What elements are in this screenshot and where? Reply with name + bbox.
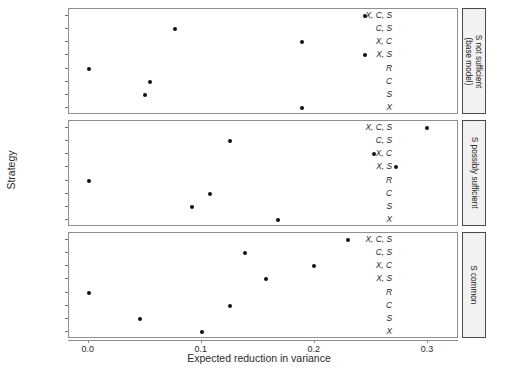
data-point (173, 27, 177, 31)
plot-area (68, 120, 458, 226)
data-point (87, 291, 91, 295)
data-point (276, 218, 280, 222)
x-tick-mark (88, 340, 89, 343)
y-tick-mark (65, 252, 68, 253)
x-tick-mark (314, 340, 315, 343)
chart-figure: Strategy X, C, SC, SX, CX, SRCSXS not su… (0, 0, 518, 373)
y-tick-mark (65, 180, 68, 181)
y-tick-label: C, S (376, 135, 392, 145)
y-tick-label: S (386, 89, 392, 99)
facet-strip-label: S possibly sufficient (462, 120, 486, 226)
y-tick-label: X, C, S (365, 10, 392, 20)
plot-area (68, 232, 458, 338)
y-tick-label: C, S (376, 23, 392, 33)
x-tick-mark (427, 340, 428, 343)
y-tick-mark (65, 28, 68, 29)
facet-strip-text: S common (469, 265, 479, 304)
data-point (312, 264, 316, 268)
y-tick-label: S (386, 201, 392, 211)
y-tick-mark (65, 193, 68, 194)
y-tick-mark (65, 278, 68, 279)
facet-strip-label: S not sufficient(base model) (462, 8, 486, 114)
y-tick-label: X, C (376, 148, 392, 158)
data-point (300, 106, 304, 110)
y-tick-label: X, C, S (365, 122, 392, 132)
y-axis-title: Strategy (2, 0, 20, 340)
plot-area (68, 8, 458, 114)
facet-strip-label: S common (462, 232, 486, 338)
y-tick-label: R (386, 287, 392, 297)
y-tick-mark (65, 41, 68, 42)
y-tick-mark (65, 331, 68, 332)
data-point (87, 179, 91, 183)
facet-strip-text: S not sufficient(base model) (465, 34, 484, 88)
y-tick-mark (65, 54, 68, 55)
data-point (148, 80, 152, 84)
data-point (243, 251, 247, 255)
y-tick-mark (65, 292, 68, 293)
data-point (394, 165, 398, 169)
x-tick-mark (201, 340, 202, 343)
y-tick-mark (65, 140, 68, 141)
facet-panel: X, C, SC, SX, CX, SRCSXS common (68, 232, 460, 340)
y-tick-label: X (386, 102, 392, 112)
x-axis-title: Expected reduction in variance (0, 352, 518, 364)
facet-panel: X, C, SC, SX, CX, SRCSXS not sufficient(… (68, 8, 460, 116)
y-tick-label: X, C, S (365, 234, 392, 244)
facet-strip-text: S possibly sufficient (469, 137, 479, 209)
data-point (200, 330, 204, 334)
y-tick-mark (65, 318, 68, 319)
y-tick-label: X (386, 214, 392, 224)
y-tick-mark (65, 265, 68, 266)
data-point (208, 192, 212, 196)
data-point (228, 304, 232, 308)
y-tick-mark (65, 166, 68, 167)
y-tick-label: X, C (376, 36, 392, 46)
y-tick-mark (65, 81, 68, 82)
y-tick-label: C (386, 188, 392, 198)
y-tick-mark (65, 206, 68, 207)
y-tick-mark (65, 153, 68, 154)
data-point (87, 67, 91, 71)
y-tick-mark (65, 68, 68, 69)
y-tick-label: X, S (376, 49, 392, 59)
y-tick-mark (65, 219, 68, 220)
y-tick-label: X (386, 326, 392, 336)
data-point (190, 205, 194, 209)
x-axis-line (68, 340, 458, 341)
facet-panel-stack: X, C, SC, SX, CX, SRCSXS not sufficient(… (68, 8, 460, 340)
y-tick-label: C (386, 300, 392, 310)
y-tick-label: X, S (376, 273, 392, 283)
data-point (425, 126, 429, 130)
y-tick-label: R (386, 63, 392, 73)
y-tick-mark (65, 305, 68, 306)
y-tick-mark (65, 107, 68, 108)
y-tick-label: X, C (376, 260, 392, 270)
data-point (300, 40, 304, 44)
data-point (363, 53, 367, 57)
y-tick-mark (65, 239, 68, 240)
y-tick-mark (65, 94, 68, 95)
data-point (143, 93, 147, 97)
y-tick-label: X, S (376, 161, 392, 171)
data-point (346, 238, 350, 242)
y-tick-mark (65, 15, 68, 16)
y-tick-label: S (386, 313, 392, 323)
data-point (228, 139, 232, 143)
facet-panel: X, C, SC, SX, CX, SRCSXS possibly suffic… (68, 120, 460, 228)
y-tick-label: R (386, 175, 392, 185)
data-point (264, 277, 268, 281)
y-tick-label: C (386, 76, 392, 86)
y-tick-label: C, S (376, 247, 392, 257)
data-point (138, 317, 142, 321)
y-tick-mark (65, 127, 68, 128)
